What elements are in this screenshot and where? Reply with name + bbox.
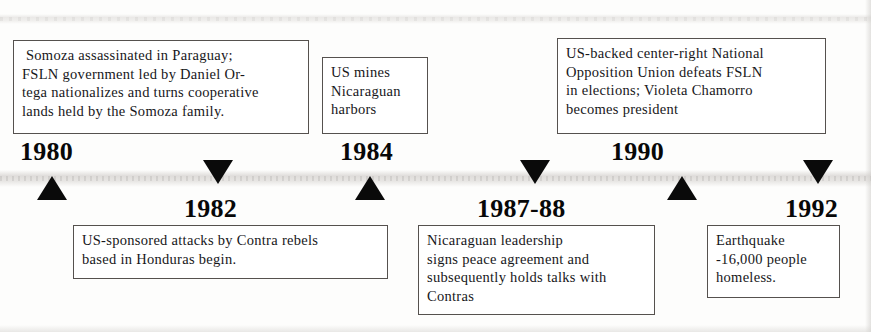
event-box-1980: Somoza assassinated in Paraguay; FSLN go… xyxy=(13,40,309,134)
scan-speckle-top xyxy=(0,17,871,21)
year-label-1990: 1990 xyxy=(611,139,664,165)
scan-artifact-right-edge xyxy=(865,0,871,332)
event-text-line: Contras xyxy=(427,287,647,306)
year-label-1982: 1982 xyxy=(184,196,237,222)
event-text-line: homeless. xyxy=(716,268,832,287)
event-text-line: lands held by the Somoza family. xyxy=(22,102,301,121)
event-text-line: in elections; Violeta Chamorro xyxy=(566,81,818,100)
timeline-canvas: Somoza assassinated in Paraguay; FSLN go… xyxy=(0,0,871,332)
event-box-1984: US mines Nicaraguan harbors xyxy=(322,57,428,134)
event-text-line: signs peace agreement and xyxy=(427,250,647,269)
timeline-marker-down-1982 xyxy=(203,160,233,184)
event-text-line: Somoza assassinated in Paraguay; xyxy=(22,46,301,65)
timeline-marker-down-1992 xyxy=(803,160,833,184)
event-box-1987-88: Nicaraguan leadership signs peace agreem… xyxy=(418,225,655,315)
event-box-1982: US-sponsored attacks by Contra rebels ba… xyxy=(73,225,388,279)
timeline-marker-up-1980 xyxy=(37,176,67,200)
event-text-line: US mines xyxy=(331,63,420,82)
year-label-1980: 1980 xyxy=(20,139,73,165)
event-text-line: tega nationalizes and turns cooperative xyxy=(22,83,301,102)
scan-speckle-axis xyxy=(0,176,871,181)
timeline-marker-down-1987-88 xyxy=(520,160,550,184)
event-text-line: harbors xyxy=(331,100,420,119)
timeline-marker-up-1990 xyxy=(667,176,697,200)
event-text-line: Nicaraguan leadership xyxy=(427,231,647,250)
event-text-line: based in Honduras begin. xyxy=(82,250,380,269)
timeline-axis-band xyxy=(0,170,871,187)
event-text-line: FSLN government led by Daniel Or- xyxy=(22,65,301,84)
event-box-1992: Earthquake -16,000 people homeless. xyxy=(707,225,840,298)
year-label-1987-88: 1987-88 xyxy=(477,196,565,222)
scan-artifact-top xyxy=(0,14,871,24)
event-text-line: US-backed center-right National xyxy=(566,44,818,63)
event-text-line: US-sponsored attacks by Contra rebels xyxy=(82,231,380,250)
event-text-line: subsequently holds talks with xyxy=(427,268,647,287)
event-text-line: Opposition Union defeats FSLN xyxy=(566,63,818,82)
event-text-line: Nicaraguan xyxy=(331,82,420,101)
event-box-1990: US-backed center-right National Oppositi… xyxy=(557,38,826,134)
scan-artifact-bottom-edge xyxy=(0,325,871,332)
event-text-line: Earthquake xyxy=(716,231,832,250)
event-text-line: -16,000 people xyxy=(716,250,832,269)
event-text-line: becomes president xyxy=(566,100,818,119)
year-label-1992: 1992 xyxy=(785,196,838,222)
timeline-marker-up-1984 xyxy=(355,176,385,200)
year-label-1984: 1984 xyxy=(340,139,393,165)
